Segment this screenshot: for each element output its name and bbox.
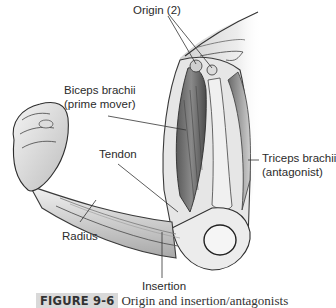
label-insertion: Insertion [142,280,186,293]
label-biceps-role: (prime mover) [64,98,136,111]
figure-number: FIGURE 9-6 [36,293,118,308]
figure-caption: FIGURE 9-6Origin and insertion/antagonis… [36,294,288,308]
label-tendon: Tendon [99,148,137,161]
label-triceps-brachii: Triceps brachii [262,152,336,165]
label-triceps-role: (antagonist) [262,166,323,179]
figure-title: Origin and insertion/antagonists [121,293,288,308]
label-origin: Origin (2) [133,4,181,17]
label-biceps-brachii: Biceps brachii [64,84,136,97]
label-radius: Radius [62,230,98,243]
forearm [30,186,180,258]
fist [13,103,68,191]
